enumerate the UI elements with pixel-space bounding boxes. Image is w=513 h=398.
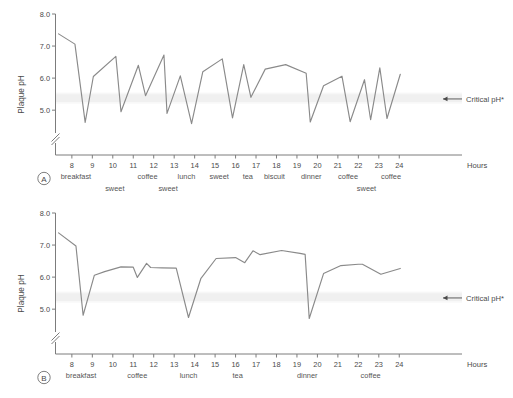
event-label: tea [243, 172, 254, 181]
critical-ph-label: Critical pH* [466, 95, 504, 104]
x-tick-label: 22 [354, 360, 362, 369]
x-tick-label: 20 [313, 360, 321, 369]
event-label: biscuit [264, 172, 285, 181]
y-tick-label: 7.0 [40, 42, 50, 51]
x-tick-label: 21 [334, 360, 342, 369]
event-label: coffee [138, 172, 158, 181]
hours-axis-label: Hours [467, 360, 487, 369]
x-tick-label: 9 [90, 360, 94, 369]
x-tick-label: 19 [293, 161, 301, 170]
ph-data-line [59, 233, 401, 319]
y-tick-label: 5.0 [40, 305, 50, 314]
hours-axis-label: Hours [467, 161, 487, 170]
x-tick-label: 18 [272, 161, 280, 170]
event-label: breakfast [66, 371, 96, 380]
x-tick-label: 14 [191, 360, 199, 369]
panel-letter: B [41, 374, 46, 383]
panel-letter: A [41, 175, 47, 184]
x-tick-label: 18 [272, 360, 280, 369]
x-tick-label: 11 [129, 360, 137, 369]
x-tick-label: 9 [90, 161, 94, 170]
event-label: sweet [210, 172, 229, 181]
event-label: coffee [127, 371, 147, 380]
event-label: lunch [180, 371, 198, 380]
x-tick-label: 19 [293, 360, 301, 369]
event-label: tea [232, 371, 243, 380]
x-tick-label: 12 [150, 161, 158, 170]
y-tick-label: 7.0 [40, 241, 50, 250]
x-tick-label: 22 [354, 161, 362, 170]
event-label: lunch [178, 172, 196, 181]
x-tick-label: 8 [70, 360, 74, 369]
x-tick-label: 20 [313, 161, 321, 170]
x-tick-label: 14 [191, 161, 199, 170]
plaque-ph-figure: 8.07.06.05.0Plaque pH8910111213141516171… [0, 0, 513, 398]
x-tick-label: 13 [170, 161, 178, 170]
critical-ph-band [56, 293, 463, 301]
event-label: sweet [158, 184, 177, 193]
x-tick-label: 16 [231, 161, 239, 170]
event-label: sweet [105, 184, 124, 193]
y-axis-title: Plaque pH [17, 274, 26, 312]
x-tick-label: 15 [211, 161, 219, 170]
x-tick-label: 8 [70, 161, 74, 170]
y-tick-label: 8.0 [40, 209, 50, 218]
chart-panel-b: 8.07.06.05.0Plaque pH8910111213141516171… [0, 199, 513, 398]
x-tick-label: 23 [375, 161, 383, 170]
y-axis-title: Plaque pH [17, 75, 26, 113]
x-tick-label: 10 [109, 161, 117, 170]
ph-data-line [59, 34, 401, 124]
x-tick-label: 17 [252, 360, 260, 369]
critical-ph-label: Critical pH* [466, 294, 504, 303]
x-tick-label: 16 [231, 360, 239, 369]
event-label: breakfast [61, 172, 91, 181]
x-tick-label: 15 [211, 360, 219, 369]
event-label: coffee [381, 172, 401, 181]
x-tick-label: 12 [150, 360, 158, 369]
chart-b-svg: 8.07.06.05.0Plaque pH8910111213141516171… [0, 199, 513, 398]
y-tick-label: 8.0 [40, 10, 50, 19]
chart-panel-a: 8.07.06.05.0Plaque pH8910111213141516171… [0, 0, 513, 199]
event-label: sweet [357, 184, 376, 193]
critical-ph-band [56, 94, 463, 102]
x-tick-label: 17 [252, 161, 260, 170]
event-label: coffee [338, 172, 358, 181]
event-label: dinner [301, 172, 322, 181]
x-tick-label: 21 [334, 161, 342, 170]
x-tick-label: 24 [395, 360, 403, 369]
y-tick-label: 6.0 [40, 273, 50, 282]
x-tick-label: 11 [129, 161, 137, 170]
x-tick-label: 10 [109, 360, 117, 369]
y-tick-label: 6.0 [40, 74, 50, 83]
y-tick-label: 5.0 [40, 106, 50, 115]
event-label: coffee [361, 371, 381, 380]
x-tick-label: 24 [395, 161, 403, 170]
chart-a-svg: 8.07.06.05.0Plaque pH8910111213141516171… [0, 0, 513, 199]
x-tick-label: 23 [375, 360, 383, 369]
event-label: dinner [297, 371, 318, 380]
x-tick-label: 13 [170, 360, 178, 369]
